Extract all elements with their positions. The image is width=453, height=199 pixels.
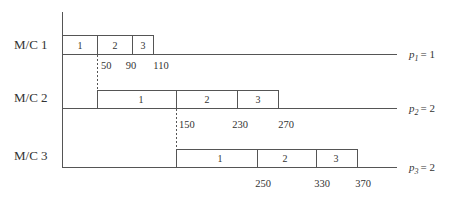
machine-row-2: M/C 2 1 2 3 150 230 270 p2= 2	[14, 90, 435, 130]
job-label: 3	[334, 153, 339, 164]
machine-label: M/C 3	[14, 148, 48, 163]
job-label: 1	[78, 40, 83, 51]
job-label: 1	[218, 153, 223, 164]
job-label: 2	[113, 40, 118, 51]
processing-label: p2= 2	[408, 102, 435, 117]
job-label: 3	[141, 40, 146, 51]
machine-row-3: M/C 3 1 2 3 250 330 370 p3= 2	[14, 148, 435, 189]
time-label: 50	[101, 60, 112, 71]
processing-label: p3= 2	[408, 161, 435, 176]
time-label: 90	[126, 60, 137, 71]
time-label: 330	[314, 178, 330, 189]
time-label: 270	[278, 119, 294, 130]
time-label: 110	[153, 60, 168, 71]
job-block	[98, 91, 177, 109]
job-label: 2	[283, 153, 288, 164]
time-label: 230	[232, 119, 248, 130]
job-label: 2	[205, 94, 210, 105]
job-label: 1	[139, 94, 144, 105]
time-label: 250	[255, 178, 271, 189]
time-label: 370	[355, 178, 371, 189]
machine-label: M/C 2	[14, 90, 48, 105]
job-label: 3	[256, 94, 261, 105]
machine-row-1: M/C 1 1 2 3 50 90 110 p1= 1	[14, 36, 435, 72]
time-label: 150	[179, 119, 195, 130]
machine-label: M/C 1	[14, 37, 48, 52]
processing-label: p1= 1	[408, 48, 435, 63]
gantt-chart: M/C 1 1 2 3 50 90 110 p1= 1 M/C 2 1 2 3 …	[0, 0, 453, 199]
